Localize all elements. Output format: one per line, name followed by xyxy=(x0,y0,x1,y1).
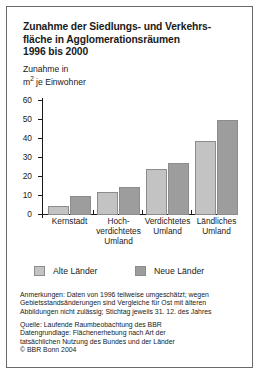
copyright-line: © BBR Bonn 2004 xyxy=(20,346,246,354)
x-category-label-3: LändlichesUmland xyxy=(187,217,246,237)
x-category-label-1-line-2: Umland xyxy=(89,237,148,247)
source-line-3: tatsächlichen Nutzung des Bundes und der… xyxy=(20,338,246,346)
source-line-1: Quelle: Laufende Raumbeobachtung des BBR xyxy=(20,321,246,329)
bar-group-0 xyxy=(46,101,93,215)
plot-area: 0102030405060 xyxy=(42,101,238,215)
annotation-line-3: Abbildungen nicht zulässig; Stichtag jew… xyxy=(20,308,246,316)
y-tick-label-20: 20 xyxy=(23,171,32,181)
chart-title: Zunahme der Siedlungs- und Verkehrs- flä… xyxy=(23,21,241,59)
bar-0-neue-laender xyxy=(70,196,91,215)
chart-title-line-2: fläche in Agglomerationsräumen xyxy=(23,34,241,47)
annotation-line-1: Anmerkungen: Daten von 1996 teilweise um… xyxy=(20,291,246,299)
bar-1-neue-laender xyxy=(119,187,140,215)
y-tick-label-10: 10 xyxy=(23,190,32,200)
y-tick-label-0: 0 xyxy=(27,209,32,219)
chart-title-line-3: 1996 bis 2000 xyxy=(23,46,241,59)
legend-item-alte-laender: Alte Länder xyxy=(34,266,97,276)
bar-3-alte-laender xyxy=(195,141,216,215)
y-tick-label-50: 50 xyxy=(23,114,32,124)
x-group-separator-1 xyxy=(93,210,94,215)
y-tick-label-30: 30 xyxy=(23,152,32,162)
bar-series-container xyxy=(42,101,238,215)
y-tick-label-60: 60 xyxy=(23,95,32,105)
bar-2-neue-laender xyxy=(168,163,189,215)
legend-swatch-alte-laender xyxy=(34,266,45,276)
y-axis-label-line-1: Zunahme in xyxy=(23,64,86,74)
x-axis-category-labels: KernstadtHoch-verdichtetesUmlandVerdicht… xyxy=(42,217,240,251)
x-category-label-3-line-1: Umland xyxy=(187,227,246,237)
bar-group-1 xyxy=(95,101,142,215)
annotation-line-2: Gebietsstandsänderungen sind Vergleiche … xyxy=(20,299,246,307)
y-tick-label-40: 40 xyxy=(23,133,32,143)
bar-1-alte-laender xyxy=(97,192,118,215)
y-axis-label: Zunahme in m2 je Einwohner xyxy=(23,64,86,87)
chart-title-line-1: Zunahme der Siedlungs- und Verkehrs- xyxy=(23,21,241,34)
bar-3-neue-laender xyxy=(217,120,238,215)
source-block: Quelle: Laufende Raumbeobachtung des BBR… xyxy=(20,321,246,354)
annotation-block: Anmerkungen: Daten von 1996 teilweise um… xyxy=(20,291,246,316)
chart-figure: Zunahme der Siedlungs- und Verkehrs- flä… xyxy=(0,0,260,375)
bar-2-alte-laender xyxy=(146,169,167,215)
legend-swatch-neue-laender xyxy=(135,266,146,276)
bar-0-alte-laender xyxy=(48,206,69,215)
chart-notes: Anmerkungen: Daten von 1996 teilweise um… xyxy=(20,291,246,354)
y-axis-label-line-2: m2 je Einwohner xyxy=(23,74,86,87)
bar-group-3 xyxy=(193,101,240,215)
chart-legend: Alte Länder Neue Länder xyxy=(34,266,234,280)
legend-item-neue-laender: Neue Länder xyxy=(135,266,204,276)
legend-label-neue-laender: Neue Länder xyxy=(154,266,204,276)
source-line-2: Datengrundlage: Flächenerhebung nach Art… xyxy=(20,329,246,337)
legend-label-alte-laender: Alte Länder xyxy=(53,266,97,276)
bar-group-2 xyxy=(144,101,191,215)
x-group-separator-3 xyxy=(191,210,192,215)
x-group-separator-2 xyxy=(142,210,143,215)
